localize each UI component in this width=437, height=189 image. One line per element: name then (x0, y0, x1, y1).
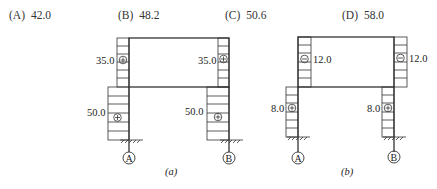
label-a-lower-left: 50.0 (87, 107, 105, 118)
support-label-a-right: B (226, 153, 233, 164)
figure-a-labels: 35.0 35.0 50.0 50.0 A B (a) (87, 55, 233, 178)
label-b-upper-right: 12.0 (409, 53, 427, 64)
support-label-b-left: A (295, 153, 303, 164)
figure-a (108, 38, 243, 164)
ground-support-a-left (120, 140, 143, 143)
label-a-lower-right: 50.0 (185, 106, 203, 117)
label-b-upper-left: 12.0 (313, 54, 331, 65)
diagram-b-upper-left (298, 37, 311, 87)
support-label-b-right: B (391, 152, 398, 163)
label-a-upper-right: 35.0 (198, 55, 216, 66)
figure-b-labels: 12.0 12.0 8.0 8.0 A B (b) (271, 53, 427, 178)
label-a-upper-left: 35.0 (96, 55, 114, 66)
figure-b (286, 37, 407, 164)
caption-a: (a) (165, 166, 178, 178)
label-b-lower-right: 8.0 (367, 103, 380, 114)
caption-b: (b) (341, 166, 354, 178)
label-b-lower-left: 8.0 (271, 103, 284, 114)
frame-diagrams: 35.0 35.0 50.0 50.0 A B (a) (0, 0, 437, 189)
ground-support-a-right (220, 140, 243, 143)
support-label-a-left: A (126, 153, 134, 164)
